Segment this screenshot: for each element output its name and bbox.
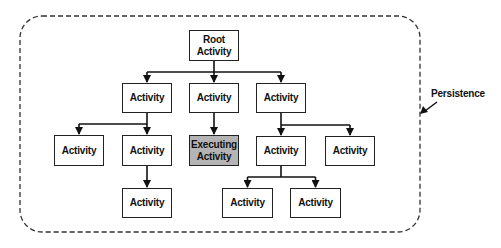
- activity-node: Activity: [222, 188, 273, 218]
- node-label: Executing: [191, 139, 237, 151]
- activity-node: Activity: [54, 135, 104, 166]
- node-label: Activity: [130, 197, 165, 209]
- node-label: Activity: [62, 145, 97, 157]
- persistence-pointer-arrow: [425, 102, 437, 111]
- activity-node: Activity: [122, 83, 172, 113]
- node-label: Activity: [264, 145, 299, 157]
- activity-node: Activity: [325, 136, 375, 166]
- activity-tree-diagram: RootActivityActivityActivityActivityActi…: [0, 0, 501, 248]
- activity-node: Activity: [122, 188, 172, 218]
- node-label: Activity: [197, 46, 232, 58]
- node-label: Activity: [230, 197, 265, 209]
- persistence-label: Persistence: [431, 88, 485, 99]
- activity-node: Activity: [256, 136, 306, 166]
- node-label: Activity: [333, 145, 368, 157]
- edges-group: [79, 61, 350, 187]
- node-label: Activity: [264, 92, 299, 104]
- activity-node: Activity: [122, 135, 172, 166]
- node-label: Activity: [298, 197, 333, 209]
- node-label: Activity: [197, 92, 232, 104]
- activity-node: Activity: [189, 83, 239, 113]
- node-label: Activity: [130, 145, 165, 157]
- activity-node: Activity: [256, 83, 306, 113]
- node-label: Root: [197, 34, 232, 46]
- activity-node: Activity: [290, 188, 341, 218]
- root-activity-node: RootActivity: [189, 30, 239, 61]
- executing-activity-node: ExecutingActivity: [189, 135, 239, 166]
- node-label: Activity: [191, 151, 237, 163]
- node-label: Activity: [130, 92, 165, 104]
